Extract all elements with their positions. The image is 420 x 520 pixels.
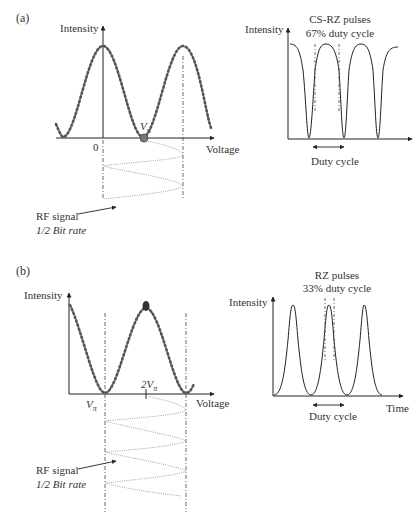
panel-a-rf-label: RF signal: [36, 210, 78, 222]
panel-a-output-title: CS-RZ pulses: [309, 13, 370, 25]
panel-b-output-intensity-label: Intensity: [229, 296, 268, 308]
panel-a-duty-cycle-label: Duty cycle: [311, 155, 359, 167]
panel-a-rf-signal: [103, 140, 183, 199]
panel-b-vpi-label: Vπ: [86, 398, 98, 413]
panel-b-intensity-label: Intensity: [24, 289, 63, 301]
panel-a-rf-arrow: [78, 207, 116, 214]
panel-b-label: (b): [16, 264, 30, 278]
panel-b-bias-point: [143, 301, 150, 311]
panel-b-output-title: RZ pulses: [315, 269, 359, 281]
cs-rz-rz-modulation-diagram: (a) Intensity Voltage 0 Vπ RF signal 1/2…: [0, 0, 420, 520]
panel-a-rf-rate: 1/2 Bit rate: [36, 224, 86, 236]
panel-b-voltage-label: Voltage: [196, 397, 230, 409]
panel-a-label: (a): [16, 11, 29, 25]
panel-a-output-intensity-label: Intensity: [245, 23, 284, 35]
panel-a-output-duty: 67% duty cycle: [306, 27, 375, 39]
panel-a-origin-label: 0: [93, 141, 99, 153]
panel-b-rf-signal: [105, 396, 186, 496]
panel-b-output-axes: [273, 297, 403, 396]
panel-b-duty-cycle-label: Duty cycle: [309, 410, 357, 422]
panel-b-rf-label: RF signal: [36, 464, 78, 476]
panel-a-intensity-label: Intensity: [60, 22, 99, 34]
panel-b-rf-arrow: [78, 461, 116, 469]
panel-b-transfer-curve: [70, 305, 194, 393]
panel-b-rf-rate: 1/2 Bit rate: [36, 478, 86, 490]
panel-b-2vpi-label: 2Vπ: [141, 378, 158, 393]
panel-a-transfer-axes: [56, 26, 214, 138]
panel-b-output-duty: 33% duty cycle: [303, 282, 372, 294]
panel-b-time-label: Time: [386, 402, 409, 414]
panel-b-rz-pulses: [274, 305, 382, 395]
panel-a-cs-rz-pulses: [290, 44, 398, 138]
panel-a-transfer-curve: [56, 46, 212, 137]
panel-a-voltage-label: Voltage: [206, 143, 240, 155]
